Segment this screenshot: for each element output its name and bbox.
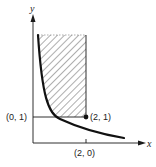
label-point-0-1: (0, 1) xyxy=(6,112,27,122)
x-axis-arrow-icon xyxy=(138,141,146,146)
hatched-region xyxy=(36,35,88,119)
y-axis-label: y xyxy=(29,3,35,14)
x-axis-label: x xyxy=(146,138,152,149)
y-axis xyxy=(31,14,36,143)
y-axis-arrow-icon xyxy=(31,14,36,22)
label-point-2-1: (2, 1) xyxy=(90,112,111,122)
diagram-canvas: y x (0, 1) (2, 1) (2, 0) xyxy=(0,0,156,167)
label-point-2-0: (2, 0) xyxy=(74,148,95,158)
point-2-1-dot xyxy=(84,115,89,120)
x-axis xyxy=(33,141,146,146)
